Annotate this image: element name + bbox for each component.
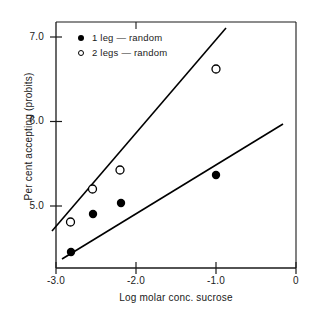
chart-legend: 1 leg — random 2 legs — random	[74, 30, 167, 60]
y-tick-label-7: 7.0	[20, 31, 44, 42]
y-axis-title: Per cent accepting (probits)	[23, 57, 34, 217]
x-axis-title: Log molar conc. sucrose	[56, 292, 296, 303]
legend-label-1leg: 1 leg — random	[92, 32, 162, 43]
x-tick-label-neg2: -2.0	[122, 275, 150, 286]
x-tick-label-neg1: -1.0	[202, 275, 230, 286]
x-tick-label-neg3: -3.0	[42, 275, 70, 286]
series-1leg-points	[67, 171, 220, 256]
legend-label-2legs: 2 legs — random	[92, 47, 167, 58]
legend-item-2legs: 2 legs — random	[74, 45, 167, 60]
chart-figure: 7.0 6.0 5.0 -3.0 -2.0 -1.0 0 Per cent ac…	[0, 0, 321, 317]
fit-lines	[52, 28, 283, 259]
x-tick-label-zero: 0	[288, 275, 304, 286]
filled-circle-icon	[74, 35, 88, 41]
legend-item-1leg: 1 leg — random	[74, 30, 167, 45]
open-circle-icon	[74, 50, 88, 56]
series-2legs-points	[67, 65, 221, 226]
